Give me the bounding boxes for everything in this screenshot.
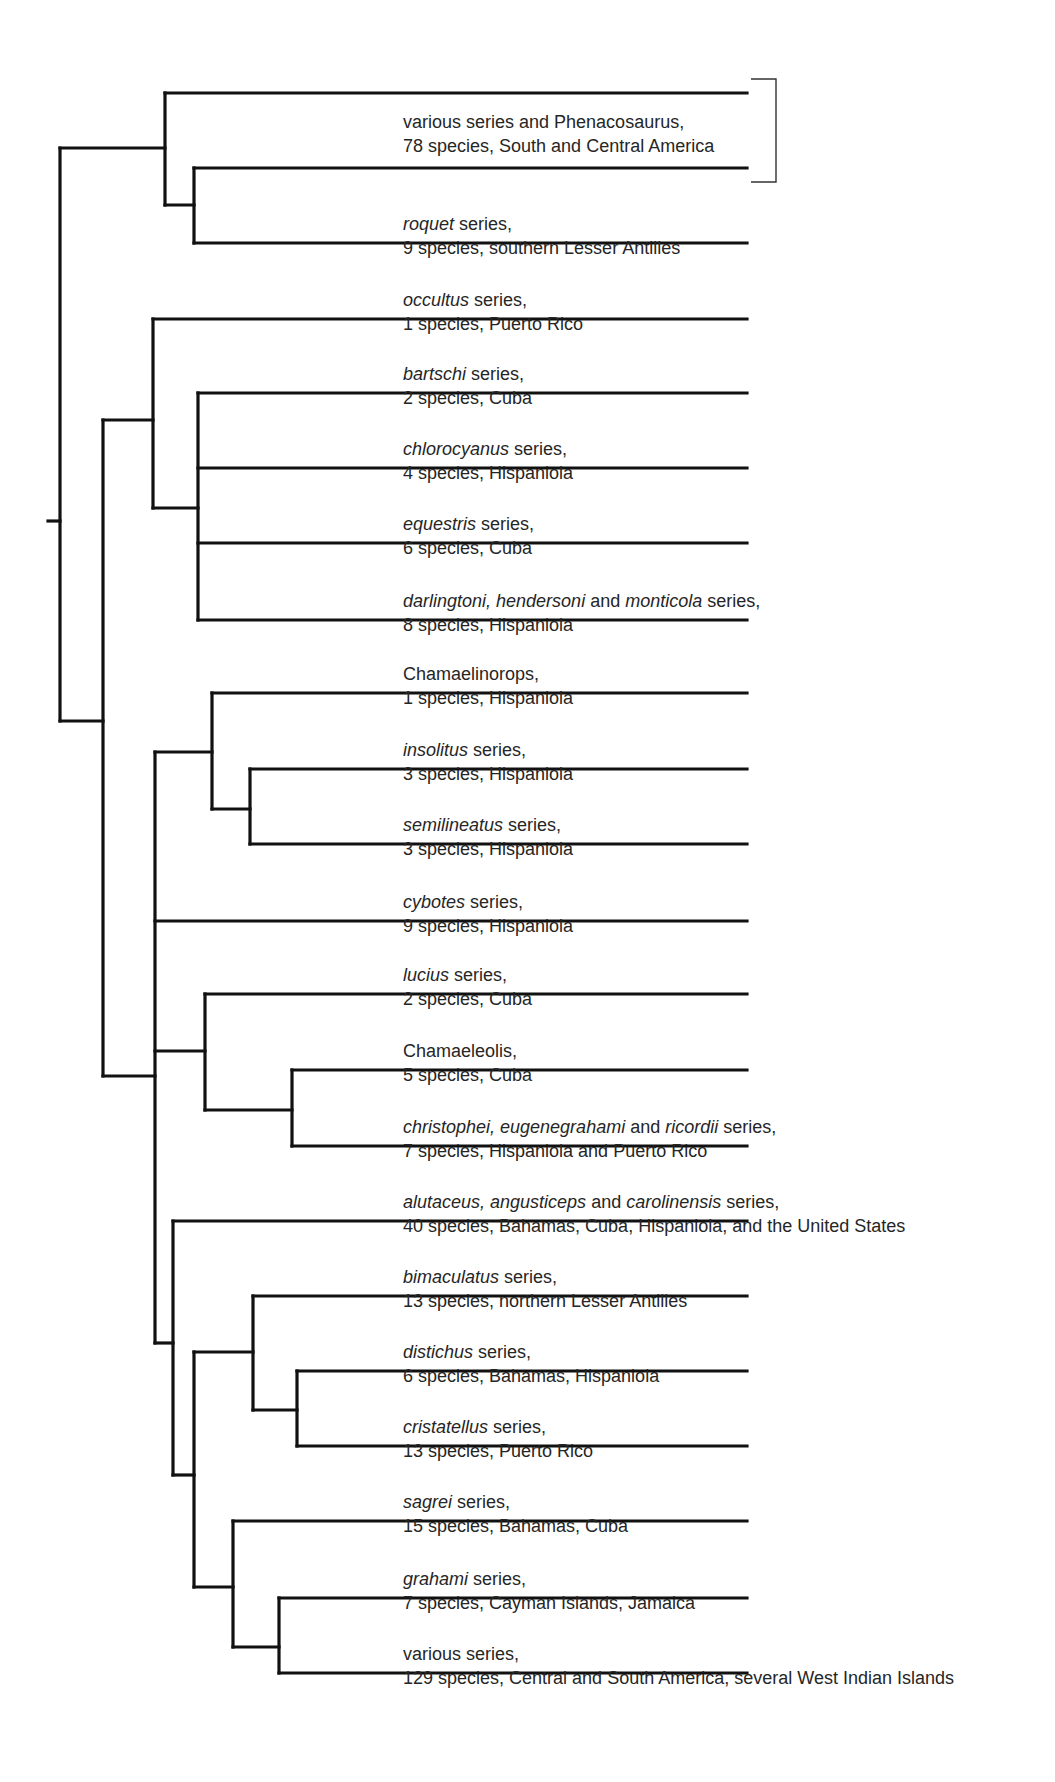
species-count-distribution: 129 species, Central and South America, … [403, 1666, 954, 1690]
series-name: Chamaeleolis, [403, 1039, 532, 1063]
taxon-label: various series,129 species, Central and … [403, 1642, 954, 1690]
taxon-label: Chamaeleolis,5 species, Cuba [403, 1039, 532, 1087]
species-count-distribution: 6 species, Cuba [403, 536, 534, 560]
species-count-distribution: 4 species, Hispaniola [403, 461, 573, 485]
series-name: grahami series, [403, 1567, 695, 1591]
taxon-label: semilineatus series,3 species, Hispaniol… [403, 813, 573, 861]
species-count-distribution: 9 species, Hispaniola [403, 914, 573, 938]
taxon-label: christophei, eugenegrahami and ricordii … [403, 1115, 776, 1163]
taxon-label: chlorocyanus series,4 species, Hispaniol… [403, 437, 573, 485]
series-name: semilineatus series, [403, 813, 573, 837]
taxon-label: occultus series,1 species, Puerto Rico [403, 288, 583, 336]
species-count-distribution: 40 species, Bahamas, Cuba, Hispaniola, a… [403, 1214, 905, 1238]
species-count-distribution: 7 species, Hispaniola and Puerto Rico [403, 1139, 776, 1163]
species-count-distribution: 2 species, Cuba [403, 987, 532, 1011]
taxon-label: sagrei series,15 species, Bahamas, Cuba [403, 1490, 628, 1538]
species-count-distribution: 3 species, Hispaniola [403, 837, 573, 861]
taxon-label: bartschi series,2 species, Cuba [403, 362, 532, 410]
taxon-label: various series and Phenacosaurus,78 spec… [403, 110, 714, 158]
taxon-label: roquet series,9 species, southern Lesser… [403, 212, 680, 260]
series-name: various series, [403, 1642, 954, 1666]
species-count-distribution: 7 species, Cayman Islands, Jamaica [403, 1591, 695, 1615]
series-name: bartschi series, [403, 362, 532, 386]
species-count-distribution: 15 species, Bahamas, Cuba [403, 1514, 628, 1538]
taxon-label: bimaculatus series,13 species, northern … [403, 1265, 687, 1313]
series-name: cybotes series, [403, 890, 573, 914]
series-name: various series and Phenacosaurus, [403, 110, 714, 134]
tree-branches [48, 93, 747, 1673]
series-name: occultus series, [403, 288, 583, 312]
species-count-distribution: 6 species, Bahamas, Hispaniola [403, 1364, 659, 1388]
taxon-label: equestris series,6 species, Cuba [403, 512, 534, 560]
taxon-label: cybotes series,9 species, Hispaniola [403, 890, 573, 938]
taxon-label: darlingtoni, hendersoni and monticola se… [403, 589, 760, 637]
series-name: bimaculatus series, [403, 1265, 687, 1289]
species-count-distribution: 1 species, Hispaniola [403, 686, 573, 710]
taxon-label: Chamaelinorops,1 species, Hispaniola [403, 662, 573, 710]
species-count-distribution: 78 species, South and Central America [403, 134, 714, 158]
taxon-label: grahami series,7 species, Cayman Islands… [403, 1567, 695, 1615]
species-count-distribution: 1 species, Puerto Rico [403, 312, 583, 336]
series-name: sagrei series, [403, 1490, 628, 1514]
taxon-label: lucius series,2 species, Cuba [403, 963, 532, 1011]
series-name: distichus series, [403, 1340, 659, 1364]
taxon-label: cristatellus series,13 species, Puerto R… [403, 1415, 593, 1463]
species-count-distribution: 8 species, Hispaniola [403, 613, 760, 637]
series-name: roquet series, [403, 212, 680, 236]
series-name: equestris series, [403, 512, 534, 536]
series-name: cristatellus series, [403, 1415, 593, 1439]
series-name: insolitus series, [403, 738, 573, 762]
species-count-distribution: 2 species, Cuba [403, 386, 532, 410]
series-name: christophei, eugenegrahami and ricordii … [403, 1115, 776, 1139]
series-name: lucius series, [403, 963, 532, 987]
series-name: darlingtoni, hendersoni and monticola se… [403, 589, 760, 613]
taxon-label: insolitus series,3 species, Hispaniola [403, 738, 573, 786]
species-count-distribution: 3 species, Hispaniola [403, 762, 573, 786]
series-name: Chamaelinorops, [403, 662, 573, 686]
bracket-line [751, 79, 776, 182]
species-count-distribution: 13 species, northern Lesser Antilles [403, 1289, 687, 1313]
species-count-distribution: 9 species, southern Lesser Antilles [403, 236, 680, 260]
series-name: alutaceus, angusticeps and carolinensis … [403, 1190, 905, 1214]
taxon-label: alutaceus, angusticeps and carolinensis … [403, 1190, 905, 1238]
taxon-label: distichus series,6 species, Bahamas, His… [403, 1340, 659, 1388]
clade-bracket [751, 79, 776, 182]
series-name: chlorocyanus series, [403, 437, 573, 461]
species-count-distribution: 13 species, Puerto Rico [403, 1439, 593, 1463]
species-count-distribution: 5 species, Cuba [403, 1063, 532, 1087]
